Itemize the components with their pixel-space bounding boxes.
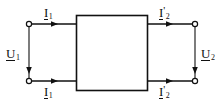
terminal-bottom-left: [26, 78, 31, 83]
voltage-right-symbol: U: [201, 47, 210, 61]
current-top-left-subscript: 1: [49, 13, 53, 21]
arrow-voltage-left: [26, 67, 32, 74]
arrow-current-top-right: [166, 21, 173, 27]
current-top-right-subscript: 2: [166, 13, 170, 21]
diagram-svg: [0, 0, 224, 103]
label-current-bottom-left: I1: [44, 83, 52, 99]
voltage-left-subscript: 1: [16, 54, 20, 62]
circuit-diagram-canvas: I1 I1 I'2 I'2 U1 U2: [0, 0, 224, 103]
two-port-box: [77, 16, 148, 91]
terminal-bottom-right: [192, 78, 197, 83]
current-top-left-symbol: I: [44, 6, 48, 20]
terminal-top-left: [26, 21, 31, 26]
label-current-top-left: I1: [44, 4, 52, 20]
current-bottom-right-subscript: 2: [166, 92, 170, 100]
terminal-top-right: [192, 21, 197, 26]
voltage-right-subscript: 2: [211, 54, 215, 62]
label-current-top-right: I'2: [159, 4, 169, 20]
arrow-voltage-right: [192, 67, 198, 74]
current-bottom-left-subscript: 1: [49, 92, 53, 100]
label-current-bottom-right: I'2: [159, 83, 169, 99]
arrow-current-top-left: [51, 21, 58, 27]
label-voltage-right: U2: [201, 45, 214, 61]
voltage-left-symbol: U: [6, 47, 15, 61]
label-voltage-left: U1: [6, 45, 19, 61]
current-bottom-left-symbol: I: [44, 85, 48, 99]
